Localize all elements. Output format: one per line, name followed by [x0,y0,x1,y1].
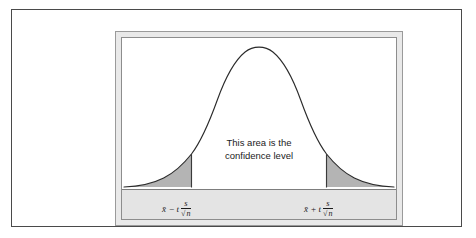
annotation-line-2: confidence level [189,149,329,162]
lower-fraction: s √n [181,199,191,218]
lower-operator: − [167,204,177,214]
upper-operator: + [309,204,319,214]
annotation-line-1: This area is the [189,136,329,149]
upper-mean-symbol: x̄ [304,204,309,214]
lower-mean-symbol: x̄ [162,204,167,214]
upper-confidence-limit-formula: x̄+t s √n [304,199,333,218]
figure-inner-frame: This area is the confidence level x̄−t s… [121,37,397,220]
lower-denominator-value: n [186,208,191,218]
plot-area: This area is the confidence level [122,38,396,189]
upper-t-symbol: t [319,204,322,214]
lower-t-symbol: t [177,204,180,214]
t-distribution-curve-svg [122,38,396,189]
upper-fraction: s √n [323,199,333,218]
upper-tail-shaded-region [327,154,395,187]
upper-denominator-value: n [328,208,333,218]
lower-tail-shaded-region [124,154,192,187]
lower-denominator: √n [181,209,191,218]
bell-curve-path [124,47,394,187]
figure-outer-frame: This area is the confidence level x̄−t s… [115,31,403,226]
confidence-level-annotation: This area is the confidence level [189,136,329,162]
page-border: This area is the confidence level x̄−t s… [11,9,462,227]
axis-label-band: x̄−t s √n x̄+t s √n [122,189,396,219]
lower-confidence-limit-formula: x̄−t s √n [162,199,191,218]
upper-denominator: √n [323,209,333,218]
